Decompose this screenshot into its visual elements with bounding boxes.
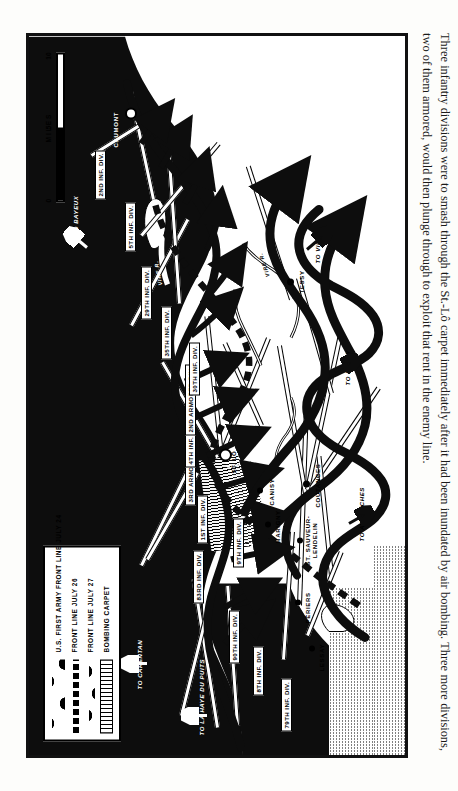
- map-page: 79TH INF. DIV. 8TH INF. DIV. 90TH INF. D…: [0, 0, 458, 791]
- legend-row: FRONT LINE JULY 26: [66, 553, 82, 733]
- bombing-carpet-swatch-icon: [100, 659, 113, 733]
- caption-text: Three infantry divisions were to smash t…: [418, 33, 454, 751]
- front-line-july24-swatch-icon: [52, 659, 65, 733]
- legend-row: FRONT LINE JULY 27: [82, 553, 98, 733]
- scale-bar-group: 0 5 10 MILES: [45, 52, 65, 202]
- scale-bar-fill: [58, 127, 63, 200]
- scale-tick-labels: 0 5 10 MILES: [45, 52, 55, 202]
- figure-caption: Three infantry divisions were to smash t…: [410, 33, 454, 758]
- front-line-july26-swatch-icon: [73, 659, 79, 733]
- direction-arrow: [307, 237, 321, 249]
- scale-tick-0: 0: [45, 198, 52, 202]
- front-line-july27-swatch-icon: [89, 659, 95, 733]
- legend: U.S. FIRST ARMY FRONT LINE JULY 24 FRONT…: [43, 545, 121, 741]
- scale-tick-10: 10: [45, 52, 52, 59]
- legend-label: U.S. FIRST ARMY FRONT LINE JULY 24: [55, 514, 62, 652]
- legend-label: BOMBING CARPET: [103, 585, 110, 652]
- legend-label: FRONT LINE JULY 26: [71, 577, 78, 652]
- direction-arrow: [335, 363, 349, 371]
- scale-bar: [56, 52, 65, 202]
- legend-row: U.S. FIRST ARMY FRONT LINE JULY 24: [50, 553, 66, 733]
- scale-title: MILES: [45, 112, 52, 142]
- map-canvas: 79TH INF. DIV. 8TH INF. DIV. 90TH INF. D…: [29, 36, 405, 755]
- map-frame: 79TH INF. DIV. 8TH INF. DIV. 90TH INF. D…: [26, 33, 408, 758]
- map-rotation-wrapper: 79TH INF. DIV. 8TH INF. DIV. 90TH INF. D…: [29, 36, 405, 755]
- direction-arrow: [75, 237, 87, 247]
- legend-label: FRONT LINE JULY 27: [87, 577, 94, 652]
- legend-row: BOMBING CARPET: [98, 553, 114, 733]
- direction-arrow: [349, 515, 363, 523]
